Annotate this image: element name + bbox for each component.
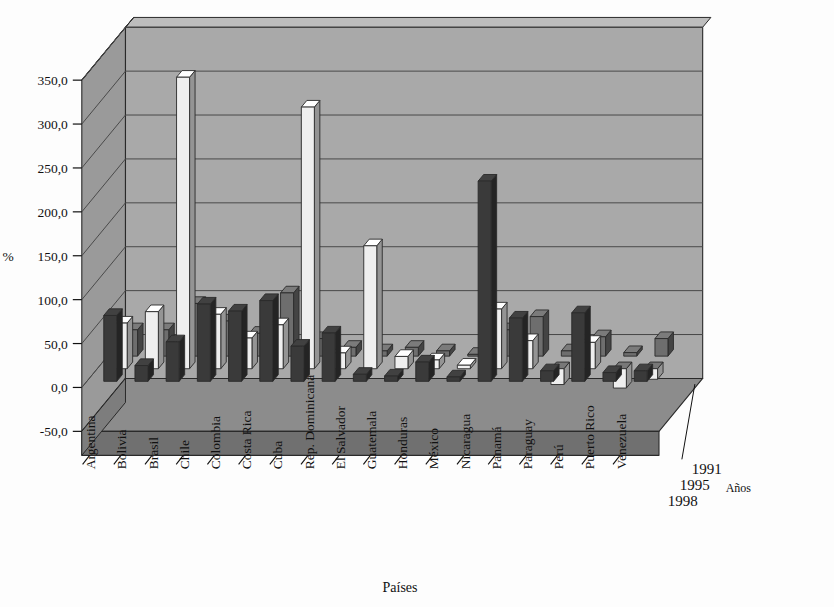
x-category-label: Perú (551, 444, 566, 469)
x-category-label: El Salvador (333, 405, 348, 469)
bar-chart-3d: 350,0300,0250,0200,0150,0100,050,00,0-50… (0, 0, 834, 607)
x-category-label: Colombia (208, 416, 223, 469)
x-category-label: Paraguay (520, 419, 535, 469)
bar-honduras-1991[interactable] (416, 355, 435, 381)
y-tick-label: 0,0 (51, 380, 68, 395)
x-category-label: Venezuela (614, 414, 629, 469)
x-category-label: Puerto Rico (582, 405, 597, 469)
chart-scene (73, 17, 711, 464)
x-category-label: Chile (177, 440, 192, 469)
y-tick-label: 50,0 (44, 337, 68, 352)
bar-costa-rica-1991[interactable] (260, 294, 279, 381)
series-legend-1991: 1991 (692, 461, 722, 477)
y-tick-label: 100,0 (37, 293, 68, 308)
bar-argentina-1991[interactable] (104, 309, 123, 382)
x-category-label: Bolivia (114, 430, 129, 470)
x-category-label: Panamá (489, 427, 504, 470)
series-legend-1998: 1998 (668, 493, 698, 509)
z-axis-title: Años (726, 481, 752, 495)
bar-guatemala-1995[interactable] (395, 350, 414, 369)
y-tick-label: -50,0 (40, 424, 68, 439)
x-category-label: Argentina (83, 416, 98, 470)
bar-rep-dominicana-1991[interactable] (322, 326, 341, 381)
bar-brasil-1991[interactable] (166, 335, 185, 381)
y-tick-label: 200,0 (37, 205, 68, 220)
bar-nicaragua-1991[interactable] (478, 174, 497, 381)
x-category-label: Nicaragua (458, 414, 473, 469)
bar-cuba-1995[interactable] (301, 100, 320, 368)
bar-panam--1991[interactable] (509, 311, 527, 381)
y-tick-label: 150,0 (37, 249, 68, 264)
x-category-label: Rep. Dominicana (302, 375, 317, 469)
series-legend-1995: 1995 (680, 477, 710, 493)
chart-canvas: 350,0300,0250,0200,0150,0100,050,00,0-50… (0, 0, 834, 607)
x-axis-title: Países (383, 580, 418, 595)
y-tick-label: 300,0 (37, 117, 68, 132)
bar-per--1991[interactable] (572, 306, 591, 381)
bar-chile-1991[interactable] (197, 297, 216, 381)
x-category-label: México (426, 428, 441, 469)
x-category-label: Costa Rica (239, 410, 254, 469)
y-tick-label: 250,0 (37, 161, 68, 176)
x-category-label: Cuba (270, 441, 285, 470)
bar-el-salvador-1995[interactable] (364, 239, 383, 369)
bar-brasil-1995[interactable] (177, 71, 196, 369)
y-tick-label: 350,0 (37, 73, 68, 88)
y-axis-title: % (3, 249, 14, 264)
bar-bolivia-1991[interactable] (135, 359, 154, 381)
x-category-label: Brasil (146, 437, 161, 469)
x-category-label: Honduras (395, 417, 410, 470)
x-category-label: Guatemala (364, 411, 379, 469)
bar-venezuela-1998[interactable] (655, 332, 674, 356)
bar-colombia-1991[interactable] (229, 304, 248, 381)
